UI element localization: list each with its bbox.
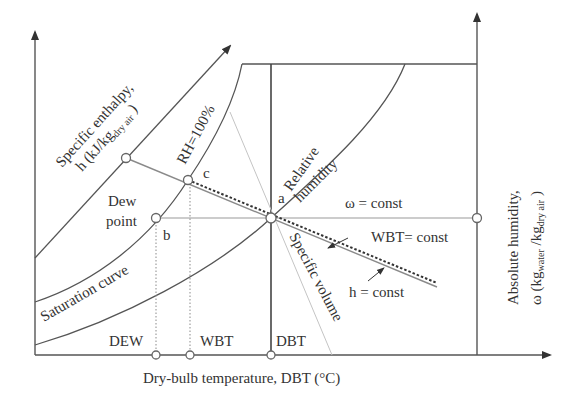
point-c-label: c: [203, 165, 210, 181]
point-b-dew: [152, 214, 161, 223]
specific-volume-label: Specific volume: [286, 230, 346, 324]
x-axis-label: Dry-bulb temperature, DBT (°C): [143, 370, 340, 387]
point-b-label: b: [163, 227, 171, 243]
dew-point-label-line1: Dew: [108, 193, 136, 209]
enthalpy-point: [122, 154, 131, 163]
rh100-label: RH=100%: [174, 102, 218, 166]
dbt-axis-point: [267, 351, 275, 359]
dew-point-label-line2: point: [106, 213, 138, 229]
wbt-axis-point: [186, 351, 194, 359]
wbt-const-label: WBT= const: [371, 229, 449, 245]
dew-axis-point: [152, 351, 160, 359]
omega-axis-point: [473, 214, 482, 223]
saturation-curve: [35, 64, 242, 302]
omega-const-label: ω = const: [345, 195, 403, 211]
specific-volume-line: [230, 112, 332, 355]
point-c: [184, 176, 193, 185]
x-tick-wbt: WBT: [200, 333, 233, 349]
x-tick-dbt: DBT: [276, 333, 306, 349]
y-axis-right-label-line2: ω (kgwater /kgdry air ): [528, 191, 546, 305]
psychrometric-diagram: Specific enthalpy, h (kJ/kgdry air ) RH=…: [0, 0, 576, 410]
point-a: [266, 213, 276, 223]
h-pointer-arrow: [368, 268, 384, 281]
point-a-label: a: [278, 190, 285, 206]
h-const-label: h = const: [349, 284, 405, 300]
h-const-line: [126, 158, 437, 287]
y-axis-right-label-line1: Absolute humidity,: [505, 190, 521, 305]
x-tick-dew: DEW: [109, 333, 144, 349]
